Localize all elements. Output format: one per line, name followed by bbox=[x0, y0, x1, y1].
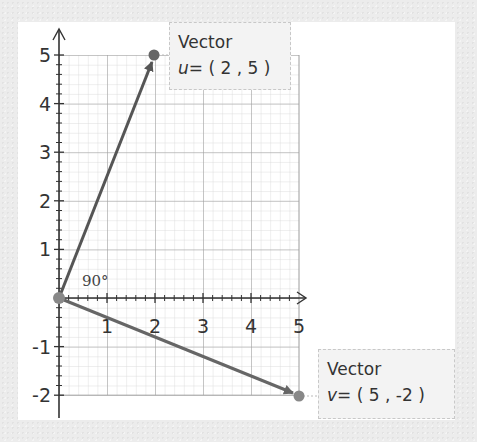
x-tick-3: 3 bbox=[197, 315, 209, 337]
origin-point bbox=[53, 292, 65, 304]
vector-u-value-row: u= ( 2 , 5 ) bbox=[178, 55, 282, 81]
vector-v-value: = ( 5 , -2 ) bbox=[337, 385, 425, 405]
y-tick-3: 3 bbox=[39, 141, 51, 163]
grid bbox=[59, 55, 299, 395]
y-tick-4: 4 bbox=[39, 93, 51, 115]
x-tick-4: 4 bbox=[245, 315, 257, 337]
vector-u-name: u bbox=[178, 58, 189, 78]
vector-v-title: Vector bbox=[327, 356, 446, 382]
vector-u-title: Vector bbox=[178, 29, 282, 55]
x-tick-5: 5 bbox=[293, 315, 305, 337]
v-endpoint bbox=[294, 391, 305, 402]
y-tick-1: 1 bbox=[39, 238, 51, 260]
y-tick-2: 2 bbox=[39, 190, 51, 212]
vector-v-name: v bbox=[327, 385, 337, 405]
vector-v-value-row: v= ( 5 , -2 ) bbox=[327, 382, 446, 408]
y-tick-5: 5 bbox=[39, 44, 51, 66]
angle-label: 90° bbox=[82, 272, 109, 290]
vector-u-label: Vector u= ( 2 , 5 ) bbox=[169, 22, 291, 90]
y-tick-neg1: -1 bbox=[32, 336, 51, 358]
vector-v-label: Vector v= ( 5 , -2 ) bbox=[318, 349, 455, 419]
y-tick-neg2: -2 bbox=[32, 384, 51, 406]
vector-u-value: = ( 2 , 5 ) bbox=[189, 58, 271, 78]
u-endpoint bbox=[149, 50, 160, 61]
